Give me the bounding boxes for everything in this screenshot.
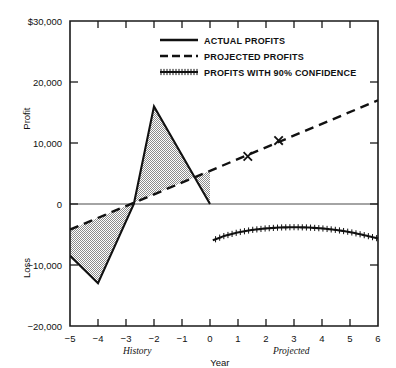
x-tick-label: 3: [291, 333, 296, 344]
y-tick-label: 0: [57, 199, 62, 210]
y-tick-label: $30,000: [28, 16, 62, 27]
era-label: History: [122, 346, 152, 356]
x-tick-label: 5: [347, 333, 352, 344]
x-tick-label: 0: [207, 333, 212, 344]
y-axis-title-loss: Loss: [21, 258, 32, 278]
x-tick-label: 6: [375, 333, 380, 344]
x-tick-label: −5: [65, 333, 76, 344]
y-axis-title-profit: Profit: [21, 107, 32, 130]
x-tick-label: 2: [263, 333, 268, 344]
x-tick-label: −1: [177, 333, 188, 344]
chart-canvas: −5−4−3−2−10123456$30,00020,00010,0000−10…: [0, 0, 396, 368]
y-tick-label: −20,000: [27, 321, 62, 332]
x-tick-label: −3: [121, 333, 132, 344]
legend-label: PROJECTED PROFITS: [204, 52, 304, 62]
y-tick-label: 10,000: [33, 138, 62, 149]
legend-label: PROFITS WITH 90% CONFIDENCE: [204, 68, 356, 78]
legend-label: ACTUAL PROFITS: [204, 36, 285, 46]
profit-loss-chart: −5−4−3−2−10123456$30,00020,00010,0000−10…: [0, 0, 396, 368]
y-tick-label: 20,000: [33, 77, 62, 88]
era-label: Projected: [272, 346, 310, 356]
x-tick-label: −4: [93, 333, 104, 344]
x-tick-label: −2: [149, 333, 160, 344]
x-axis-title: Year: [210, 357, 229, 368]
x-tick-label: 4: [319, 333, 324, 344]
y-tick-label: −10,000: [27, 260, 62, 271]
x-tick-label: 1: [235, 333, 240, 344]
